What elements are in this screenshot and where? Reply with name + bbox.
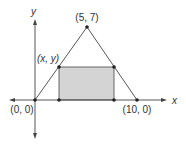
x-axis-label: x — [171, 95, 178, 106]
y-axis — [33, 19, 37, 139]
dot-rect-top-right — [112, 65, 116, 69]
dot-right-vertex — [135, 98, 139, 102]
y-axis-bottom-arrow-icon — [33, 133, 37, 139]
inscribed-rectangle — [59, 67, 114, 100]
dot-origin — [33, 98, 37, 102]
origin-label: (0, 0) — [10, 104, 33, 115]
dot-rect-bottom-left — [57, 98, 61, 102]
dot-rect-top-left — [57, 65, 61, 69]
rect-corner-label: (x, y) — [37, 53, 59, 64]
apex-label: (5, 7) — [75, 12, 98, 23]
y-axis-label: y — [30, 6, 37, 17]
x-axis-right-arrow-icon — [161, 98, 167, 102]
x-axis-left-arrow-icon — [9, 98, 15, 102]
dot-rect-bottom-right — [112, 98, 116, 102]
dot-apex — [85, 25, 89, 29]
diagram-canvas: y x (5, 7) (x, y) (0, 0) (10, 0) — [0, 0, 186, 146]
right-vertex-label: (10, 0) — [123, 104, 152, 115]
y-axis-top-arrow-icon — [33, 19, 37, 25]
